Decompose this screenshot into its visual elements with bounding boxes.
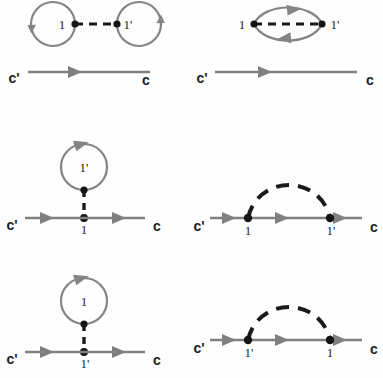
panel-tadpole-self-energy-upper: 1' 1 c' c: [0, 138, 192, 248]
line-vertex-label: 1: [81, 222, 88, 237]
tadpole-loop-label: 1: [81, 294, 88, 309]
external-label-in: c': [8, 70, 19, 86]
external-label-out: c: [366, 72, 374, 88]
panel-rainbow-self-energy-upper: 1 1' c' c: [192, 170, 383, 250]
loop-upper-arrowhead-icon: [286, 3, 301, 15]
vertex-label-left: 1: [59, 17, 66, 32]
external-label-out: c: [370, 219, 378, 235]
loop-lower-arrowhead-icon: [276, 32, 291, 44]
propagator-arrowhead-icon-left: [222, 334, 236, 346]
interaction-dashed-arc: [248, 185, 330, 218]
panel-tadpole-self-energy-lower: 1 1' c' c: [0, 272, 192, 378]
propagator-arrowhead-icon: [258, 66, 272, 78]
external-label-out: c: [370, 341, 378, 357]
right-loop-arrowhead-icon: [156, 14, 165, 23]
left-loop-arrowhead-icon: [27, 24, 36, 33]
vertex-dot-loop-base: [80, 186, 87, 193]
propagator-arrowhead-icon-right: [333, 334, 347, 346]
external-label-out: c: [153, 218, 161, 234]
vertex-dot-left: [244, 336, 252, 344]
vertex-dot-right: [113, 20, 120, 27]
feynman-diagram-figure: 1 1' c' c 1: [0, 0, 383, 378]
external-label-out: c: [142, 72, 150, 88]
panel-double-tadpole-disconnected: 1 1' c' c: [0, 0, 192, 100]
external-label-in: c': [6, 217, 17, 233]
propagator-arrowhead-icon-middle: [275, 334, 289, 346]
vertex-dot-left: [71, 20, 78, 27]
vertex-dot-right: [318, 20, 325, 27]
vertex-label-right: 1': [124, 17, 133, 32]
propagator-arrowhead-icon-left: [40, 346, 54, 358]
external-label-in: c': [193, 340, 204, 356]
vertex-dot-right: [326, 336, 334, 344]
vertex-dot-loop-base: [80, 320, 87, 327]
propagator-arrowhead-icon-right: [112, 346, 126, 358]
propagator-arrowhead-icon: [68, 66, 82, 78]
vertex-label-left: 1': [245, 345, 254, 360]
vertex-dot-left: [250, 20, 257, 27]
vertex-dot-right: [326, 214, 334, 222]
external-label-in: c': [193, 218, 204, 234]
tadpole-loop-label: 1': [80, 160, 89, 175]
panel-bubble-lens-loop: 1 1' c' c: [192, 0, 383, 100]
left-loop-circle: [31, 2, 75, 46]
propagator-arrowhead-icon-right: [112, 212, 126, 224]
vertex-label-left: 1: [239, 17, 246, 32]
line-vertex-label: 1': [81, 356, 90, 371]
interaction-dashed-arc: [248, 307, 330, 340]
vertex-label-right: 1': [327, 223, 336, 238]
external-label-in: c': [196, 70, 207, 86]
propagator-arrowhead-icon-left: [222, 212, 236, 224]
vertex-dot-left: [244, 214, 252, 222]
panel-rainbow-self-energy-lower: 1' 1 c' c: [192, 292, 383, 372]
vertex-label-left: 1: [245, 223, 252, 238]
vertex-label-right: 1': [331, 17, 340, 32]
external-label-in: c': [6, 351, 17, 367]
vertex-label-right: 1: [327, 345, 334, 360]
propagator-arrowhead-icon-middle: [275, 212, 289, 224]
external-label-out: c: [153, 352, 161, 368]
propagator-arrowhead-icon-left: [40, 212, 54, 224]
